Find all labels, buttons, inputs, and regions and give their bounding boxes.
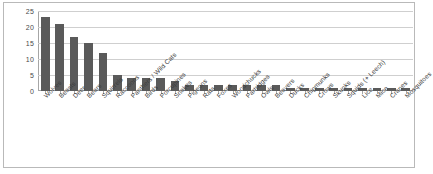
bar-slot [153, 11, 167, 91]
bar-slot [38, 11, 52, 91]
x-axis-category-labels: WolvesBeastsDeerBearsSquirrelsRaccoonsPa… [38, 95, 413, 173]
bar-slot [52, 11, 66, 91]
bar-slot [81, 11, 95, 91]
y-axis-tick-label: 20 [26, 24, 34, 31]
y-axis-tick-label: 10 [26, 56, 34, 63]
bar-slot [298, 11, 312, 91]
bar [41, 17, 50, 91]
bar-slot [225, 11, 239, 91]
chart-frame: 0510152025 WolvesBeastsDeerBearsSquirrel… [3, 2, 415, 168]
bar-slot [326, 11, 340, 91]
bar-slot [384, 11, 398, 91]
bar [84, 43, 93, 91]
bar-series [38, 11, 413, 91]
bar-slot [370, 11, 384, 91]
y-axis-tick-label: 0 [30, 88, 34, 95]
bar-slot [211, 11, 225, 91]
y-axis-tick-label: 5 [30, 72, 34, 79]
bar-slot [96, 11, 110, 91]
bar-slot [67, 11, 81, 91]
bar-slot [269, 11, 283, 91]
y-axis-tick-label: 15 [26, 40, 34, 47]
bar-slot [399, 11, 413, 91]
plot-area: 0510152025 [38, 11, 413, 91]
y-axis-tick-label: 25 [26, 8, 34, 15]
